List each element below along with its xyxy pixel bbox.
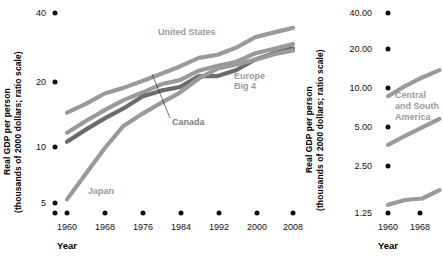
series-label-csa-line3: America: [395, 112, 431, 123]
series-label-europe-big4-line2: Big 4: [234, 81, 256, 92]
series-label-japan: Japan: [88, 186, 114, 197]
left-chart-panel: Real GDP per person (thousands of 2000 d…: [0, 0, 300, 262]
right-chart-plot: [300, 0, 443, 262]
series-label-europe-big4-line1: Europe: [234, 71, 265, 82]
series-label-csa-line2: and South: [395, 101, 439, 112]
right-chart-panel: Real GDP per person (thousands of 2000 d…: [300, 0, 443, 262]
series-label-canada: Canada: [172, 117, 205, 128]
left-chart-plot: [0, 0, 300, 262]
series-label-csa-line1: Central: [395, 90, 426, 101]
series-label-united-states: United States: [158, 27, 216, 38]
